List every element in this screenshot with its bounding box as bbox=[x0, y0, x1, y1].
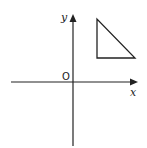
origin-label: O bbox=[62, 71, 70, 82]
x-axis-arrow-icon bbox=[130, 79, 138, 86]
right-triangle bbox=[97, 19, 135, 58]
y-axis-arrow-icon bbox=[70, 14, 77, 22]
y-axis-label: y bbox=[60, 11, 68, 24]
x-axis-label: x bbox=[130, 86, 137, 99]
coordinate-diagram: y x O bbox=[0, 0, 147, 148]
